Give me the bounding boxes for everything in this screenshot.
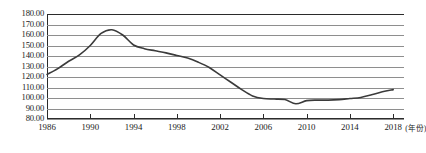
x-tick-label-2018: 2018 [384, 122, 402, 133]
x-tick-mark-2002 [220, 114, 221, 118]
y-axis-tick-labels: 180.00170.00160.00150.00140.00130.00120.… [0, 14, 46, 119]
series-path [47, 30, 393, 104]
x-tick-mark-1990 [90, 114, 91, 118]
x-axis-unit-label: (年份) [405, 123, 426, 134]
x-tick-label-2002: 2002 [211, 122, 229, 133]
y-tick-label-100: 100.00 [0, 93, 44, 102]
x-tick-mark-2006 [263, 114, 264, 118]
x-tick-label-1990: 1990 [81, 122, 99, 133]
x-tick-label-2014: 2014 [341, 122, 359, 133]
x-tick-mark-2018 [393, 114, 394, 118]
y-tick-label-110: 110.00 [0, 83, 44, 92]
x-tick-label-2010: 2010 [298, 122, 316, 133]
x-tick-mark-1998 [177, 114, 178, 118]
x-tick-mark-1994 [134, 114, 135, 118]
x-axis-tick-labels: 198619901994199820022006201020142018(年份) [0, 120, 419, 140]
y-tick-label-130: 130.00 [0, 62, 44, 71]
data-series-line [47, 14, 404, 119]
y-tick-label-90: 90.00 [0, 104, 44, 113]
x-tick-mark-2014 [350, 114, 351, 118]
plot-area [47, 14, 404, 119]
x-tick-label-1998: 1998 [168, 122, 186, 133]
y-tick-label-150: 150.00 [0, 41, 44, 50]
y-tick-label-170: 170.00 [0, 20, 44, 29]
x-tick-label-1994: 1994 [125, 122, 143, 133]
x-tick-label-2006: 2006 [255, 122, 273, 133]
y-tick-label-160: 160.00 [0, 30, 44, 39]
y-tick-label-140: 140.00 [0, 51, 44, 60]
y-tick-label-180: 180.00 [0, 9, 44, 18]
x-tick-mark-2010 [307, 114, 308, 118]
y-tick-label-120: 120.00 [0, 72, 44, 81]
x-tick-label-1986: 1986 [38, 122, 56, 133]
